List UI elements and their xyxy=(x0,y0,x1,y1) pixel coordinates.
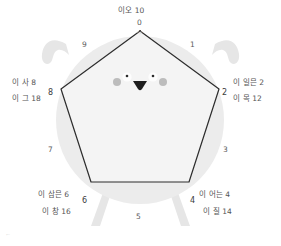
tick-label-3: 3 xyxy=(223,145,228,154)
tick-label-7: 7 xyxy=(48,145,53,154)
right-arm xyxy=(212,40,239,64)
pentagon-shape xyxy=(61,31,219,182)
tick-label-9: 9 xyxy=(82,40,87,49)
right-pupil xyxy=(152,75,155,78)
vertex-label-top-line-1: 이오 10 xyxy=(118,4,144,15)
tick-label-1: 1 xyxy=(190,40,195,49)
vertex-label-bottom-right-line-1: 이 어는 4 xyxy=(199,188,230,199)
tick-label-0: 0 xyxy=(137,18,142,27)
vertex-label-right-line-1: 이 일믄 2 xyxy=(233,76,264,87)
figure-canvas: 0 1 2 3 4 5 6 7 8 9 이오 10 이 일믄 2 이 목 12 … xyxy=(0,0,281,246)
left-blush xyxy=(113,78,121,86)
tick-label-2: 2 xyxy=(222,88,227,97)
tick-label-6: 6 xyxy=(82,196,87,205)
vertex-label-left-line-1: 이 사 8 xyxy=(12,76,36,87)
corner-mark: ⌐ xyxy=(6,231,10,237)
vertex-label-left-line-2: 이 그 18 xyxy=(12,92,41,103)
left-pupil xyxy=(126,75,129,78)
tick-label-5: 5 xyxy=(136,212,141,221)
tick-label-4: 4 xyxy=(190,196,195,205)
tick-label-8: 8 xyxy=(48,88,53,97)
vertex-label-bottom-left-line-1: 이 삼믄 6 xyxy=(38,188,69,199)
left-arm xyxy=(42,40,69,64)
vertex-label-bottom-left-line-2: 이 창 16 xyxy=(42,205,71,216)
vertex-label-bottom-right-line-2: 이 질 14 xyxy=(203,205,232,216)
right-blush xyxy=(159,78,167,86)
vertex-label-right-line-2: 이 목 12 xyxy=(233,92,262,103)
